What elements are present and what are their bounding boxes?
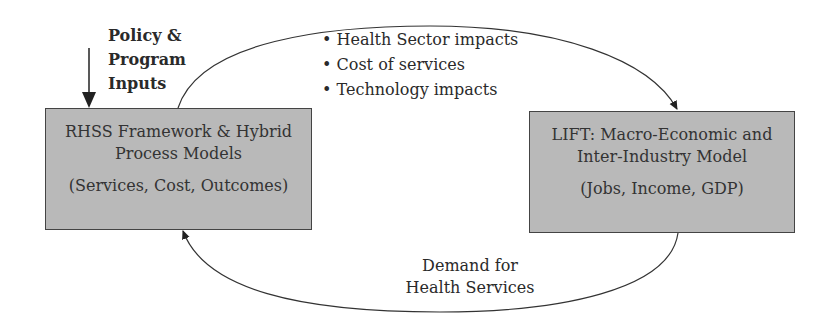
left-box-subtitle: (Services, Cost, Outcomes): [46, 175, 311, 197]
demand-label: Demand for Health Services: [370, 255, 570, 299]
right-box-title-line-1: LIFT: Macro-Economic and: [552, 125, 773, 144]
left-box-title-line-1: RHSS Framework & Hybrid: [65, 122, 292, 141]
policy-input-arrow: [82, 48, 96, 108]
right-box-title-line-2: Inter-Industry Model: [577, 147, 747, 166]
inputs-line-3: Inputs: [108, 72, 186, 96]
rhss-framework-box: RHSS Framework & Hybrid Process Models (…: [45, 108, 312, 230]
inputs-line-2: Program: [108, 48, 186, 72]
policy-program-inputs-label: Policy & Program Inputs: [108, 24, 186, 96]
left-box-title-line-2: Process Models: [115, 144, 242, 163]
demand-line-1: Demand for: [370, 255, 570, 277]
list-item: Cost of services: [322, 52, 518, 77]
list-item: Technology impacts: [322, 77, 518, 102]
list-item: Health Sector impacts: [322, 27, 518, 52]
demand-line-2: Health Services: [370, 277, 570, 299]
lift-model-box: LIFT: Macro-Economic and Inter-Industry …: [529, 111, 795, 233]
top-flow-list: Health Sector impacts Cost of services T…: [322, 27, 518, 102]
right-box-subtitle: (Jobs, Income, GDP): [530, 178, 794, 200]
inputs-line-1: Policy &: [108, 24, 186, 48]
